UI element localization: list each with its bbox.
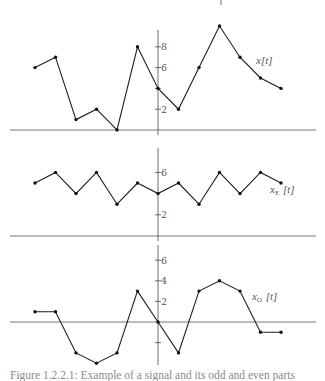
- data-point: [279, 331, 282, 334]
- y-tick-label: 6: [161, 167, 167, 178]
- panel-even-part: 26xE [t]: [10, 148, 316, 241]
- panel-odd-part: 246xO [t]: [10, 245, 316, 365]
- data-point: [259, 331, 262, 334]
- data-point: [115, 351, 118, 354]
- data-point: [115, 128, 118, 131]
- data-point: [156, 320, 159, 323]
- data-point: [238, 192, 241, 195]
- data-point: [197, 203, 200, 206]
- data-point: [95, 171, 98, 174]
- data-point: [177, 351, 180, 354]
- data-point: [238, 56, 241, 59]
- data-point: [197, 66, 200, 69]
- data-point: [136, 45, 139, 48]
- y-tick-label: 2: [161, 209, 167, 220]
- data-point: [197, 289, 200, 292]
- data-point: [33, 310, 36, 313]
- data-point: [259, 171, 262, 174]
- y-tick-label: 2: [161, 104, 167, 115]
- figure-caption: Figure 1.2.2.1: Example of a signal and …: [10, 369, 295, 381]
- data-point: [115, 203, 118, 206]
- data-point: [177, 181, 180, 184]
- data-point: [218, 24, 221, 27]
- data-point: [54, 171, 57, 174]
- data-point: [156, 192, 159, 195]
- data-point: [33, 66, 36, 69]
- y-tick-label: 8: [161, 41, 167, 52]
- data-point: [156, 87, 159, 90]
- data-point: [279, 87, 282, 90]
- y-tick-label: 2: [161, 296, 167, 307]
- series-label: xO [t]: [251, 290, 277, 304]
- y-tick-label: 6: [161, 62, 167, 73]
- series-label: xE [t]: [269, 183, 295, 197]
- series-label: x[t]: [255, 54, 273, 66]
- panel-signal-x: 268x[t]: [10, 24, 316, 135]
- data-point: [74, 192, 77, 195]
- data-point: [238, 289, 241, 292]
- data-point: [95, 362, 98, 365]
- data-point: [54, 56, 57, 59]
- y-tick-label: 6: [161, 255, 167, 266]
- data-point: [218, 279, 221, 282]
- data-point: [218, 171, 221, 174]
- data-point: [95, 108, 98, 111]
- y-tick-label: 4: [161, 275, 167, 286]
- data-point: [74, 351, 77, 354]
- data-point: [136, 289, 139, 292]
- data-point: [136, 181, 139, 184]
- data-point: [33, 181, 36, 184]
- data-point: [74, 118, 77, 121]
- data-point: [177, 108, 180, 111]
- data-point: [54, 310, 57, 313]
- data-point: [259, 76, 262, 79]
